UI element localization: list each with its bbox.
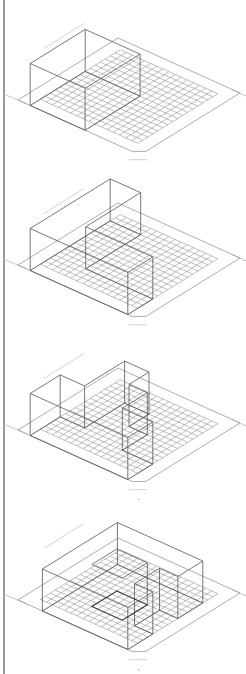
grid-line <box>120 50 218 94</box>
grid-line <box>95 230 193 274</box>
volume-base-edge <box>30 71 85 105</box>
grid-line <box>85 571 183 615</box>
isometric-drawing-step-4 <box>0 500 246 674</box>
grid-line <box>95 65 193 109</box>
volume-footprint <box>30 403 153 479</box>
axis-tick-right <box>232 420 246 427</box>
grid-line <box>120 85 200 135</box>
construction-line <box>44 353 84 378</box>
grid-line <box>126 418 206 468</box>
volume-roof-outline <box>30 361 153 437</box>
base-slab-outline <box>18 38 240 152</box>
volume-base-edge <box>122 450 153 464</box>
grid-line <box>100 62 198 106</box>
volume-footprint <box>30 221 153 315</box>
grid-line <box>107 245 187 295</box>
isometric-drawing-step-3 <box>0 330 246 500</box>
base-slab-outline <box>18 538 240 652</box>
volume-base-edge <box>178 603 203 619</box>
grid-line <box>90 233 188 277</box>
volume-base-edge <box>128 634 153 650</box>
grid-line <box>115 53 213 97</box>
grid-line <box>100 562 198 606</box>
grid-line <box>80 75 178 119</box>
grid-line <box>95 239 175 289</box>
floor-grid <box>40 215 218 309</box>
volume-base-edge <box>86 235 141 269</box>
grid-line <box>132 256 212 306</box>
construction-line <box>44 188 84 213</box>
grid-line <box>120 215 218 259</box>
volume-base-edge <box>30 271 128 315</box>
grid-line <box>120 380 218 424</box>
grid-line <box>100 227 198 271</box>
axis-tick-right <box>232 90 246 97</box>
grid-line <box>90 68 188 112</box>
axis-tick-left <box>6 595 26 604</box>
grid-line <box>138 94 218 144</box>
grid-line <box>120 415 200 465</box>
volume-base-edge <box>135 626 153 634</box>
grid-line <box>115 553 213 597</box>
panel-step-1 <box>0 0 246 165</box>
volume-base-edge <box>128 299 153 315</box>
volume-base-edge <box>135 610 160 626</box>
panel-step-2 <box>0 165 246 330</box>
grid-line <box>113 583 193 633</box>
grid-line <box>120 250 200 300</box>
grid-line <box>105 59 203 103</box>
grid-line <box>113 413 193 463</box>
grid-line <box>126 253 206 303</box>
grid-line <box>113 248 193 298</box>
grid-line <box>107 80 187 130</box>
volume-base-edge <box>85 96 140 130</box>
grid-line <box>115 383 213 427</box>
grid-line <box>85 236 183 280</box>
grid-line <box>110 56 208 100</box>
grid-line <box>126 88 206 138</box>
volume-base-edge <box>30 436 128 480</box>
grid-line <box>113 83 193 133</box>
grid-line <box>101 242 181 292</box>
grid-line <box>105 224 203 268</box>
panel-step-4 <box>0 500 246 674</box>
grid-line <box>101 77 181 127</box>
volume-base-edge <box>60 417 84 428</box>
grid-line <box>90 568 188 612</box>
volume-base-edge <box>110 221 141 235</box>
volume-base-edge <box>128 464 153 480</box>
volume-base-edge <box>30 221 110 271</box>
grid-line <box>132 421 212 471</box>
construction-line <box>44 523 84 548</box>
floor-grid <box>40 50 218 144</box>
construction-line <box>44 23 84 48</box>
grid-line <box>105 389 203 433</box>
axis-tick-left <box>6 95 26 104</box>
grid-line <box>132 91 212 141</box>
grid-line <box>115 218 213 262</box>
axis-tick-left <box>6 260 26 269</box>
volume-base-edge <box>160 610 178 618</box>
axis-tick-right <box>232 255 246 262</box>
grid-line <box>110 556 208 600</box>
panel-step-3 <box>0 330 246 500</box>
center-mark <box>138 669 140 671</box>
axis-tick-left <box>6 425 26 434</box>
volume-base-edge <box>85 403 125 428</box>
isometric-drawing-step-2 <box>0 165 246 330</box>
axis-tick-right <box>232 590 246 597</box>
isometric-drawing-step-1 <box>0 0 246 165</box>
base-slab-outline <box>18 203 240 317</box>
